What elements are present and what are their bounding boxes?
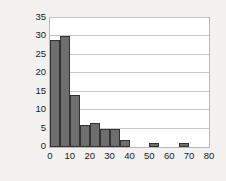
histogram-bar [90, 123, 100, 147]
y-tick-label: 30 [22, 30, 46, 40]
y-tick-label: 15 [22, 86, 46, 96]
x-tick-label: 80 [196, 150, 222, 162]
histogram-bar [179, 143, 189, 147]
y-tick-label: 20 [22, 67, 46, 77]
histogram-bar [100, 129, 110, 147]
histogram-figure: Frequency 05101520253035 010203040506070… [0, 0, 226, 181]
histogram-bar [60, 36, 70, 147]
plot-area [49, 17, 210, 148]
histogram-bar [120, 140, 130, 147]
histogram-bar [149, 143, 159, 147]
y-axis-tick-labels: 05101520253035 [22, 12, 46, 148]
histogram-bar [110, 129, 120, 147]
y-tick-label: 5 [22, 123, 46, 133]
x-axis-tick-labels: 01020304050607080 [49, 150, 210, 164]
bar-series [50, 18, 209, 147]
y-tick-label: 10 [22, 104, 46, 114]
histogram-bar [70, 95, 80, 147]
y-tick-label: 35 [22, 12, 46, 22]
y-tick-label: 25 [22, 49, 46, 59]
histogram-bar [50, 40, 60, 147]
histogram-bar [80, 125, 90, 147]
